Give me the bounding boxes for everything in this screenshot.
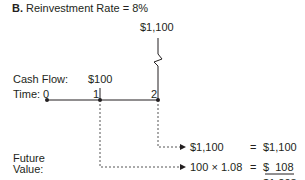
time-tick-2: 2 [151,89,157,100]
fv-row-1-result: $1,100 [263,142,297,153]
arrowhead-1 [180,144,186,150]
fv-row-1-expression: $1,100 [190,142,224,153]
title-letter: B. [12,2,23,14]
fv-row-2-expression: 100 × 1.08 [190,162,242,173]
cash-flow-period-1: $100 [88,74,112,85]
fv-total: $1,208 [263,178,297,180]
time-tick-1: 1 [93,89,99,100]
fv-row-2-result: $ 108 [263,162,294,173]
dashed-path-period-2 [158,104,180,147]
future-value-label-2: Value: [13,164,43,175]
arrowhead-2 [180,164,186,170]
diagram-title: B. Reinvestment Rate = 8% [12,3,148,14]
fv-row-1-equals: = [250,142,256,153]
time-tick-0: 0 [43,89,49,100]
cash-flow-period-2: $1,100 [140,22,174,33]
title-text: Reinvestment Rate = 8% [26,2,148,14]
fv-row-2-equals: = [250,162,256,173]
cash-flow-label: Cash Flow: [13,74,68,85]
time-label: Time: [13,89,40,100]
dashed-path-period-1 [100,104,180,167]
